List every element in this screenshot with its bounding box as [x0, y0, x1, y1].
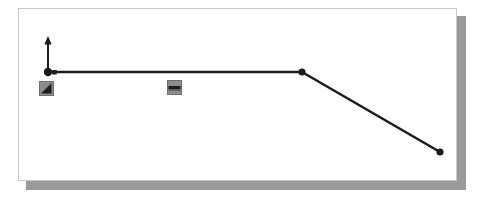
app-root: Polyline Diagram Canvas Arrow tool Line …	[0, 0, 481, 200]
line-tool-button[interactable]	[167, 80, 182, 95]
arrow-tool-button[interactable]	[39, 81, 54, 96]
horizontal-bar-icon	[168, 81, 181, 94]
arrow-diagonal-icon	[40, 82, 53, 95]
drawing-page[interactable]	[18, 8, 457, 181]
